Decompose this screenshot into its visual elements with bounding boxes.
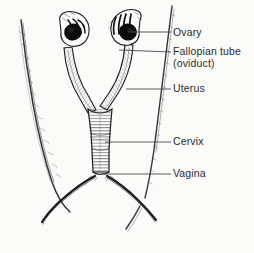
label-fallopian-tube: Fallopian tube (oviduct)	[173, 45, 241, 69]
anatomy-figure: Ovary Fallopian tube (oviduct) Uterus Ce…	[0, 0, 254, 253]
anatomy-illustration	[0, 0, 254, 253]
left-uterine-horn	[60, 40, 104, 120]
right-uterine-horn	[96, 38, 140, 118]
pelvic-outline-left	[42, 176, 95, 224]
label-fallopian-tube-line2: (oviduct)	[173, 57, 241, 69]
body-contour-left	[19, 20, 70, 212]
label-fallopian-tube-line1: Fallopian tube	[173, 45, 241, 57]
label-ovary: Ovary	[173, 26, 202, 38]
uterine-body	[86, 106, 116, 176]
label-uterus: Uterus	[173, 82, 205, 94]
label-vagina: Vagina	[173, 167, 206, 179]
label-cervix: Cervix	[173, 135, 204, 147]
